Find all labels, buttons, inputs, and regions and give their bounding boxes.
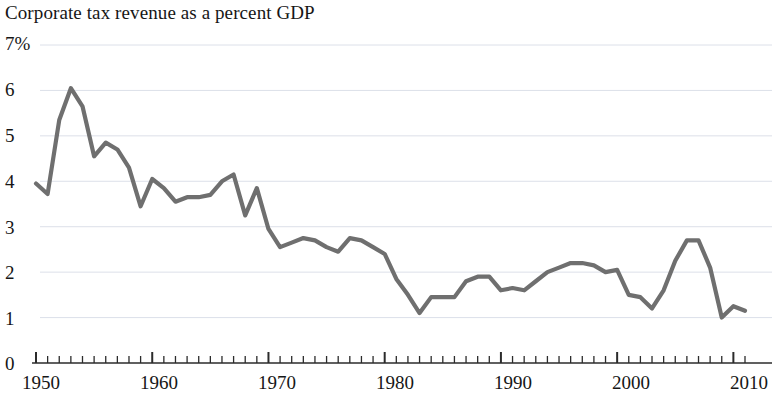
- data-series-line: [36, 88, 745, 317]
- chart-plot-area: [0, 0, 777, 398]
- x-axis-tick-marks: [36, 352, 745, 363]
- chart-figure: Corporate tax revenue as a percent GDP 7…: [0, 0, 777, 398]
